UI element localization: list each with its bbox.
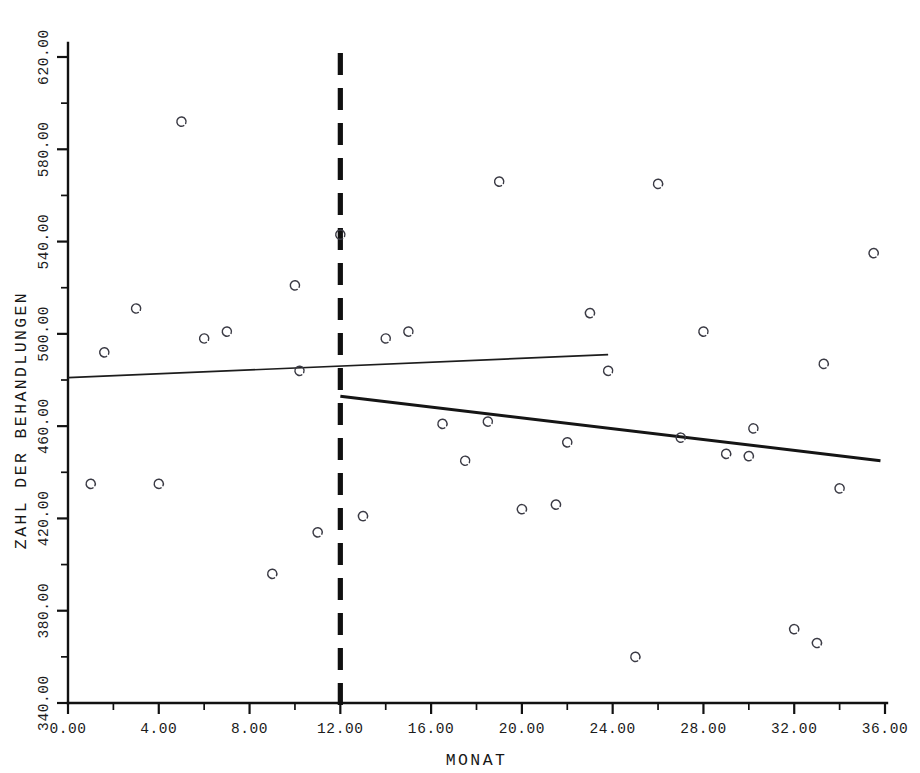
data-point-marker — [563, 438, 572, 447]
trendlines-group — [68, 355, 880, 461]
data-point-marker — [358, 512, 367, 521]
regression-post-intervention — [340, 396, 880, 461]
data-point-marker — [313, 528, 322, 537]
data-point-marker — [177, 117, 186, 126]
x-tick-label: 28.00 — [680, 721, 727, 737]
data-point-marker — [200, 334, 209, 343]
data-point-marker — [722, 449, 731, 458]
data-markers-group — [86, 117, 878, 661]
x-axis-title: MONAT — [446, 751, 508, 770]
data-point-marker — [381, 334, 390, 343]
data-point-marker — [517, 505, 526, 514]
y-tick-label: 620.00 — [36, 29, 52, 85]
x-tick-label: 24.00 — [589, 721, 636, 737]
data-point-marker — [154, 479, 163, 488]
data-point-marker — [790, 625, 799, 634]
y-tick-label: 380.00 — [36, 583, 52, 639]
tick-labels-group: 0.004.008.0012.0016.0020.0024.0028.0032.… — [36, 29, 908, 737]
y-tick-label: 420.00 — [36, 491, 52, 547]
data-point-marker — [290, 281, 299, 290]
y-axis-title: ZAHL DER BEHANDLUNGEN — [12, 291, 31, 549]
data-point-marker — [222, 327, 231, 336]
data-point-marker — [461, 456, 470, 465]
data-point-marker — [585, 308, 594, 317]
data-point-marker — [631, 652, 640, 661]
data-point-marker — [812, 638, 821, 647]
x-tick-label: 12.00 — [317, 721, 364, 737]
data-point-marker — [653, 179, 662, 188]
data-point-marker — [699, 327, 708, 336]
chart-container: 0.004.008.0012.0016.0020.0024.0028.0032.… — [0, 0, 920, 773]
scatter-plot-svg: 0.004.008.0012.0016.0020.0024.0028.0032.… — [0, 0, 920, 773]
axes-group — [57, 43, 887, 714]
data-point-marker — [438, 419, 447, 428]
x-tick-label: 16.00 — [408, 721, 455, 737]
data-point-marker — [749, 424, 758, 433]
y-tick-label: 580.00 — [36, 121, 52, 177]
data-point-marker — [483, 417, 492, 426]
data-point-marker — [835, 484, 844, 493]
data-point-marker — [869, 249, 878, 258]
data-point-marker — [268, 569, 277, 578]
x-tick-label: 0.00 — [49, 721, 86, 737]
data-point-marker — [86, 479, 95, 488]
y-tick-label: 540.00 — [36, 214, 52, 270]
data-point-marker — [604, 366, 613, 375]
data-point-marker — [404, 327, 413, 336]
data-point-marker — [744, 452, 753, 461]
x-tick-label: 32.00 — [771, 721, 818, 737]
y-tick-label: 340.00 — [36, 675, 52, 731]
x-tick-label: 36.00 — [862, 721, 909, 737]
x-tick-label: 8.00 — [231, 721, 268, 737]
data-point-marker — [819, 359, 828, 368]
data-point-marker — [551, 500, 560, 509]
x-tick-label: 4.00 — [140, 721, 177, 737]
y-tick-label: 500.00 — [36, 306, 52, 362]
data-point-marker — [495, 177, 504, 186]
data-point-marker — [100, 348, 109, 357]
data-point-marker — [131, 304, 140, 313]
y-tick-label: 460.00 — [36, 398, 52, 454]
x-tick-label: 20.00 — [499, 721, 546, 737]
